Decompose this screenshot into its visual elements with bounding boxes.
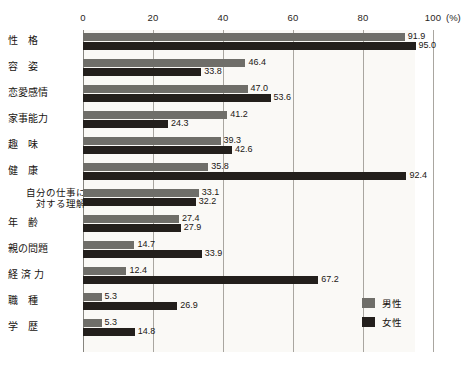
bar-male xyxy=(83,137,221,145)
category-label-line2: 対する理解 xyxy=(8,198,86,209)
bar-female xyxy=(83,120,168,128)
bar-male xyxy=(83,33,405,41)
bar-value-male: 46.4 xyxy=(248,58,266,66)
bar-value-male: 41.2 xyxy=(230,110,248,118)
bar-value-male: 5.3 xyxy=(105,292,118,300)
bar-value-female: 32.2 xyxy=(199,197,217,205)
category-label-line1: 自分の仕事に xyxy=(8,187,86,198)
category-label: 年 齢 xyxy=(8,217,86,228)
bar-male xyxy=(83,267,126,275)
bar-row: 年 齢27.427.9 xyxy=(0,212,458,238)
category-label: 健 康 xyxy=(8,165,86,176)
bar-female xyxy=(83,68,201,76)
bar-value-female: 33.8 xyxy=(204,67,222,75)
legend-swatch-female xyxy=(362,317,375,327)
bar-value-female: 42.6 xyxy=(235,145,253,153)
category-label: 家事能力 xyxy=(8,113,86,124)
bar-female xyxy=(83,198,196,206)
category-label: 学 歴 xyxy=(8,321,86,332)
category-label-text: 家事能力 xyxy=(8,113,48,124)
category-label-text: 健 康 xyxy=(8,165,38,176)
x-axis-tick-labels: 020406080100(%) xyxy=(0,12,458,28)
bar-value-male: 33.1 xyxy=(202,188,220,196)
bar-value-female: 67.2 xyxy=(321,275,339,283)
bar-male xyxy=(83,189,199,197)
bar-male xyxy=(83,111,227,119)
bar-row: 経 済 力12.467.2 xyxy=(0,264,458,290)
bar-value-male: 14.7 xyxy=(137,240,155,248)
bar-value-male: 91.9 xyxy=(408,32,426,40)
legend-item-female: 女性 xyxy=(362,315,432,329)
bar-row: 健 康35.892.4 xyxy=(0,160,458,186)
bar-value-male: 35.8 xyxy=(211,162,229,170)
category-label: 職 種 xyxy=(8,295,86,306)
bar-row: 趣 味39.342.6 xyxy=(0,134,458,160)
bar-value-female: 92.4 xyxy=(409,171,427,179)
category-label-text: 性 格 xyxy=(8,35,38,46)
bar-value-female: 53.6 xyxy=(274,93,292,101)
bar-value-female: 95.0 xyxy=(419,41,437,49)
x-tick-label-20: 20 xyxy=(148,12,159,23)
legend-label: 男性 xyxy=(382,296,402,310)
category-label-text: 職 種 xyxy=(8,295,38,306)
bar-male xyxy=(83,319,102,327)
bar-male xyxy=(83,163,208,171)
category-label: 経 済 力 xyxy=(8,269,86,280)
x-tick-label-100: 100 xyxy=(425,12,441,23)
x-tick-label-0: 0 xyxy=(80,12,85,23)
bar-value-male: 47.0 xyxy=(251,84,269,92)
category-label: 自分の仕事に対する理解 xyxy=(8,187,86,209)
bar-female xyxy=(83,172,406,180)
category-label: 趣 味 xyxy=(8,139,86,150)
category-label: 親の問題 xyxy=(8,243,86,254)
legend-label: 女性 xyxy=(382,315,402,329)
category-label-text: 恋愛感情 xyxy=(8,87,48,98)
bar-row: 自分の仕事に対する理解33.132.2 xyxy=(0,186,458,212)
bar-value-male: 27.4 xyxy=(182,214,200,222)
category-label: 性 格 xyxy=(8,35,86,46)
x-tick-label-40: 40 xyxy=(218,12,229,23)
bar-value-male: 39.3 xyxy=(224,136,242,144)
bar-value-male: 12.4 xyxy=(129,266,147,274)
bar-female xyxy=(83,42,416,50)
bar-value-female: 27.9 xyxy=(184,223,202,231)
category-label-text: 趣 味 xyxy=(8,139,38,150)
category-label-text: 経 済 力 xyxy=(8,269,44,280)
legend-item-male: 男性 xyxy=(362,296,432,310)
category-label-text: 学 歴 xyxy=(8,321,38,332)
chart-legend: 男性女性 xyxy=(362,296,432,334)
bar-row: 容 姿46.433.8 xyxy=(0,56,458,82)
x-tick-label-60: 60 xyxy=(288,12,299,23)
bar-male xyxy=(83,241,134,249)
bar-female xyxy=(83,328,135,336)
bar-female xyxy=(83,224,181,232)
bar-row: 親の問題14.733.9 xyxy=(0,238,458,264)
x-tick-label-80: 80 xyxy=(358,12,369,23)
bar-female xyxy=(83,94,271,102)
bar-male xyxy=(83,293,102,301)
bar-female xyxy=(83,146,232,154)
legend-swatch-male xyxy=(362,298,375,308)
bar-male xyxy=(83,215,179,223)
bar-female xyxy=(83,250,202,258)
bar-row: 性 格91.995.0 xyxy=(0,30,458,56)
bar-value-female: 24.3 xyxy=(171,119,189,127)
bar-value-male: 5.3 xyxy=(105,318,118,326)
bar-row: 恋愛感情47.053.6 xyxy=(0,82,458,108)
category-label-text: 容 姿 xyxy=(8,61,38,72)
category-label-text: 親の問題 xyxy=(8,243,48,254)
bar-male xyxy=(83,85,248,93)
bar-female xyxy=(83,276,318,284)
bar-value-female: 14.8 xyxy=(138,327,156,335)
x-axis-unit-label: (%) xyxy=(446,12,461,23)
category-label-text: 年 齢 xyxy=(8,217,38,228)
category-label: 容 姿 xyxy=(8,61,86,72)
bar-value-female: 26.9 xyxy=(180,301,198,309)
bar-value-female: 33.9 xyxy=(205,249,223,257)
category-label: 恋愛感情 xyxy=(8,87,86,98)
bar-female xyxy=(83,302,177,310)
bar-row: 家事能力41.224.3 xyxy=(0,108,458,134)
